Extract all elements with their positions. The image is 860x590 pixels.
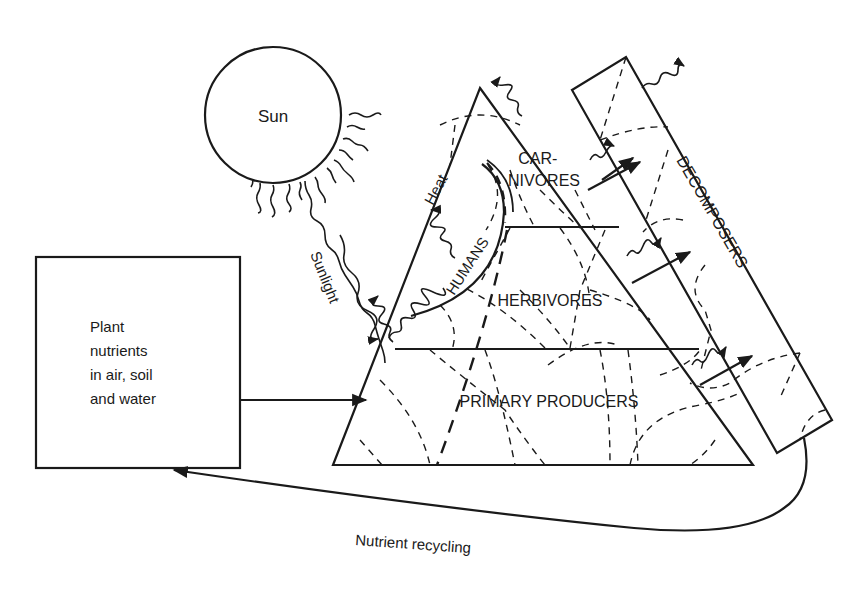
nutrient-recycling-label: Nutrient recycling xyxy=(355,531,472,556)
sun-label: Sun xyxy=(258,107,288,126)
sun: Sun xyxy=(205,47,385,363)
nutrient-recycling-arrow-icon xyxy=(174,438,807,531)
heat-wave-humans-icon xyxy=(389,288,445,338)
sun-rays-icon xyxy=(251,113,385,363)
primary-producers-label: PRIMARY PRODUCERS xyxy=(460,393,639,410)
nutrient-box: Plant nutrients in air, soil and water xyxy=(36,257,240,468)
heat-arrow-decomposers-icon xyxy=(642,65,684,88)
nutrient-box-frame xyxy=(36,257,240,468)
heat-arrow-carnivores-icon xyxy=(497,77,522,116)
herbivores-label: HERBIVORES xyxy=(498,292,603,309)
ecosystem-diagram: Sun Sunlight Heat Plant nu xyxy=(0,0,860,590)
trophic-pyramid: CAR- NIVORES HERBIVORES PRIMARY PRODUCER… xyxy=(333,88,753,465)
decomposers-label: DECOMPOSERS xyxy=(673,153,751,271)
sunlight-arrow-icon xyxy=(340,235,378,339)
heat-arrow-humans-icon xyxy=(430,210,455,258)
nutrient-box-label: Plant nutrients in air, soil and water xyxy=(90,318,157,407)
carnivores-label: CAR- NIVORES xyxy=(508,150,580,189)
